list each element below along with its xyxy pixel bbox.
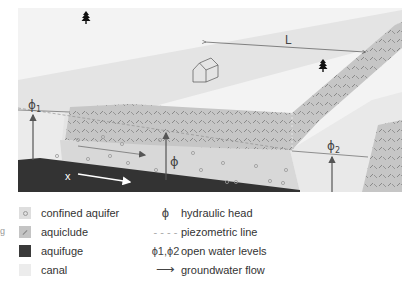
legend-label: piezometric line bbox=[181, 226, 257, 238]
legend-item-aquifuge: aquifuge bbox=[19, 241, 119, 260]
confined-aquifer-swatch bbox=[19, 207, 31, 219]
legend-label: open water levels bbox=[181, 245, 267, 257]
legend-item-confined-aquifer: confined aquifer bbox=[19, 203, 119, 222]
legend-item-aquiclude: aquiclude bbox=[19, 222, 119, 241]
aquiclude-swatch bbox=[19, 226, 31, 238]
legend-label: aquifuge bbox=[41, 245, 83, 257]
phi1-phi2-icon: ϕ1,ϕ2 bbox=[150, 245, 181, 257]
legend-label: groundwater flow bbox=[181, 264, 265, 276]
legend-item-hydraulic-head: ϕ hydraulic head bbox=[150, 203, 267, 222]
groundwater-diagram: L ϕ1 ϕ ϕ2 x bbox=[0, 0, 418, 200]
canal-swatch bbox=[19, 264, 31, 276]
legend-materials: confined aquifer aquiclude aquifuge cana… bbox=[19, 203, 119, 279]
phi-icon: ϕ bbox=[150, 205, 181, 220]
legend-item-groundwater-flow: ⟶ groundwater flow bbox=[150, 260, 267, 279]
legend-item-open-water-levels: ϕ1,ϕ2 open water levels bbox=[150, 241, 267, 260]
legend-label: confined aquifer bbox=[41, 207, 119, 219]
legend-label: hydraulic head bbox=[181, 207, 253, 219]
length-label: L bbox=[285, 33, 292, 47]
legend-label: canal bbox=[41, 264, 67, 276]
phi-label: ϕ bbox=[170, 154, 179, 169]
legend-item-canal: canal bbox=[19, 260, 119, 279]
aquifuge-swatch bbox=[19, 245, 31, 257]
dashed-line-icon: - - - - bbox=[150, 226, 181, 238]
legend-symbols: ϕ hydraulic head - - - - piezometric lin… bbox=[150, 203, 267, 279]
side-mark: g bbox=[0, 226, 5, 236]
legend-item-piezometric-line: - - - - piezometric line bbox=[150, 222, 267, 241]
legend-label: aquiclude bbox=[41, 226, 88, 238]
arrow-right-icon: ⟶ bbox=[150, 262, 181, 277]
x-label: x bbox=[65, 170, 71, 182]
